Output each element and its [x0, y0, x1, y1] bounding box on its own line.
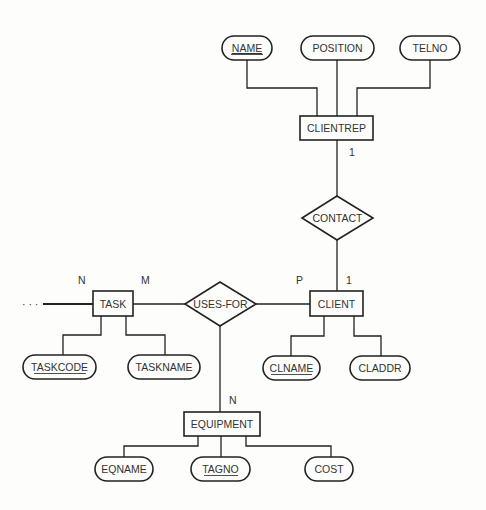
entity-label: CLIENT — [318, 298, 356, 310]
connector-telno — [357, 60, 430, 116]
attribute-tagno[interactable]: TAGNO — [191, 457, 250, 481]
relationship-usesfor[interactable]: USES-FOR — [185, 282, 256, 326]
relationship-label: CONTACT — [313, 212, 364, 224]
connector-name — [247, 60, 317, 116]
entity-clientrep[interactable]: CLIENTREP — [300, 116, 373, 140]
attribute-label: EQNAME — [101, 463, 147, 475]
attribute-taskcode[interactable]: TASKCODE — [23, 355, 96, 379]
attribute-clname[interactable]: CLNAME — [263, 356, 320, 380]
entity-label: CLIENTREP — [307, 122, 366, 134]
attribute-taskname[interactable]: TASKNAME — [128, 355, 200, 379]
entity-label: EQUIPMENT — [191, 418, 254, 430]
connector-eqname — [124, 436, 198, 457]
cardinality-equipment-usesfor: N — [229, 394, 237, 406]
attribute-telno[interactable]: TELNO — [400, 36, 460, 60]
attribute-label: NAME — [232, 42, 262, 54]
attribute-claddr[interactable]: CLADDR — [350, 356, 410, 380]
er-diagram: · · · CLIENTREP CLIENT TASK EQUIPMENT CO… — [0, 0, 486, 510]
relationship-contact[interactable]: CONTACT — [302, 196, 373, 240]
connector-taskname — [126, 316, 165, 355]
attribute-label: TAGNO — [202, 463, 239, 475]
attribute-name[interactable]: NAME — [222, 36, 272, 60]
cardinality-task-usesfor: M — [141, 274, 150, 286]
attribute-position[interactable]: POSITION — [301, 36, 374, 60]
connector-clname — [291, 316, 324, 356]
cardinality-client-contact: 1 — [346, 274, 352, 286]
cardinality-client-usesfor: P — [296, 274, 303, 286]
continuation-dots: · · · — [22, 298, 38, 310]
cardinality-task-left: N — [78, 274, 86, 286]
attribute-eqname[interactable]: EQNAME — [95, 457, 153, 481]
attribute-label: CLNAME — [270, 362, 314, 374]
attribute-label: POSITION — [312, 42, 362, 54]
entity-task[interactable]: TASK — [93, 291, 133, 316]
entity-client[interactable]: CLIENT — [310, 291, 363, 316]
attribute-label: TASKCODE — [31, 361, 88, 373]
connector-cost — [246, 436, 331, 457]
cardinality-clientrep-contact: 1 — [349, 146, 355, 158]
attribute-label: TELNO — [412, 42, 447, 54]
connector-claddr — [354, 316, 381, 356]
attribute-label: COST — [314, 463, 344, 475]
relationship-label: USES-FOR — [193, 298, 248, 310]
attribute-label: CLADDR — [358, 362, 402, 374]
attribute-label: TASKNAME — [136, 361, 193, 373]
entity-label: TASK — [100, 298, 127, 310]
connector-taskcode — [63, 316, 101, 355]
entity-equipment[interactable]: EQUIPMENT — [184, 412, 260, 436]
attribute-cost[interactable]: COST — [305, 457, 353, 481]
